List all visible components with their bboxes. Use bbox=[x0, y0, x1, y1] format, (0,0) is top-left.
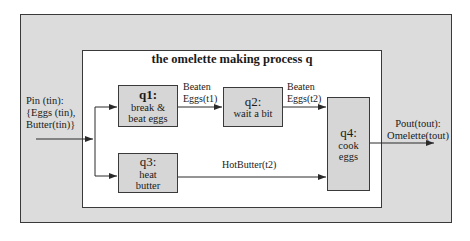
process-q1-label: break & beat eggs bbox=[128, 102, 167, 124]
process-q4-id: q4: bbox=[340, 126, 357, 140]
output-label: Pout(tout): Omelette(tout) bbox=[383, 118, 453, 142]
process-q3: q3: heat butter bbox=[118, 153, 178, 193]
edge-label-q3-q4: HotButter(t2) bbox=[222, 159, 276, 171]
process-q3-id: q3: bbox=[140, 155, 157, 169]
edge-label-q1-q2: Beaten Eggs(t1) bbox=[183, 81, 217, 104]
process-q4: q4: cook eggs bbox=[327, 97, 370, 191]
process-q2: q2: wait a bit bbox=[223, 87, 283, 127]
process-q2-label: wait a bit bbox=[233, 108, 272, 119]
edge-label-q2-q4: Beaten Eggs(t2) bbox=[287, 81, 321, 104]
process-q4-label: cook eggs bbox=[338, 140, 358, 162]
process-q2-id: q2: bbox=[245, 95, 262, 109]
process-q1-id: q1: bbox=[139, 88, 157, 102]
input-label: Pin (tin): {Eggs (tin), Butter(tin)} bbox=[26, 95, 75, 131]
process-q1: q1: break & beat eggs bbox=[118, 85, 178, 127]
process-q3-label: heat butter bbox=[136, 169, 161, 191]
